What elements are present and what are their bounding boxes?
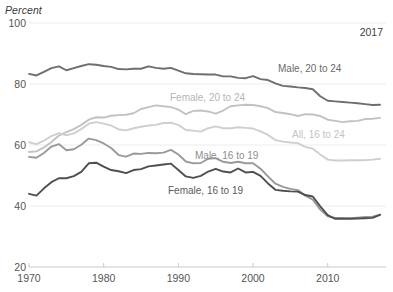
series-label: Female, 20 to 24	[170, 92, 245, 103]
x-axis-tick-marks	[29, 263, 328, 267]
chart-plot-area	[0, 0, 393, 292]
y-axis-tick-label: 60	[0, 139, 26, 151]
y-axis-tick-label: 80	[0, 78, 26, 90]
series-label: All, 16 to 24	[292, 129, 345, 140]
series-label: Female, 16 to 19	[168, 185, 243, 196]
gridlines	[29, 23, 386, 206]
series-label: Male, 20 to 24	[278, 63, 341, 74]
x-axis-tick-label: 2010	[316, 272, 339, 284]
chart-container: Percent 2017 10080604020 197019801990200…	[0, 0, 393, 292]
series-lines	[29, 64, 380, 219]
y-axis-tick-label: 40	[0, 200, 26, 212]
x-axis-tick-label: 1980	[92, 272, 115, 284]
series-label: Male, 16 to 19	[195, 150, 258, 161]
x-axis-tick-label: 1970	[17, 272, 40, 284]
y-axis-tick-label: 100	[0, 17, 26, 29]
x-axis-tick-label: 2000	[241, 272, 264, 284]
x-axis-tick-label: 1990	[167, 272, 190, 284]
